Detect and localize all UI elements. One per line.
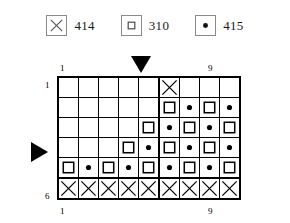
grid-cell[interactable] [99, 138, 119, 158]
grid-cell[interactable] [139, 158, 160, 179]
dot-icon [180, 138, 199, 157]
grid-cell[interactable] [200, 77, 220, 98]
cross-icon [220, 179, 239, 198]
grid-cell[interactable] [58, 178, 79, 199]
grid-cell[interactable] [220, 98, 241, 118]
dot-icon [200, 118, 219, 137]
grid-cell[interactable] [99, 118, 119, 138]
grid-cell[interactable] [79, 158, 99, 179]
grid-cell[interactable] [119, 98, 139, 118]
square-icon [119, 138, 138, 157]
grid-cell[interactable] [79, 77, 99, 98]
cross-icon [99, 179, 118, 198]
cross-icon [160, 78, 179, 97]
grid-cell[interactable] [139, 138, 160, 158]
dot-icon [139, 138, 158, 157]
grid-cell[interactable] [119, 77, 139, 98]
grid-cell[interactable] [159, 178, 180, 199]
cross-icon [139, 179, 158, 198]
grid-cell[interactable] [200, 178, 220, 199]
cross-icon [180, 179, 199, 198]
grid-cell[interactable] [119, 138, 139, 158]
square-icon [220, 158, 239, 177]
grid-cell[interactable] [180, 98, 200, 118]
grid-cell[interactable] [79, 138, 99, 158]
cross-icon [200, 179, 219, 198]
grid-cell[interactable] [180, 77, 200, 98]
row-label-top-left: 1 [45, 81, 50, 90]
grid-cell[interactable] [200, 118, 220, 138]
dot-icon [79, 158, 98, 177]
legend-entry-310: 310 [121, 15, 169, 36]
grid-container [57, 76, 241, 200]
square-icon [180, 118, 199, 137]
grid-cell[interactable] [200, 98, 220, 118]
grid-cell[interactable] [99, 158, 119, 179]
grid-cell[interactable] [139, 77, 160, 98]
grid-row [58, 98, 240, 118]
triangle-down-icon [131, 56, 151, 73]
column-label-bottom-right: 9 [208, 207, 213, 216]
grid-cell[interactable] [119, 158, 139, 179]
row-label-bottom-left: 6 [45, 192, 50, 201]
square-icon [99, 158, 118, 177]
grid-cell[interactable] [220, 178, 241, 199]
column-label-top-right: 9 [208, 64, 213, 73]
square-icon [200, 138, 219, 157]
grid-cell[interactable] [220, 77, 241, 98]
grid-row [58, 118, 240, 138]
grid-row [58, 178, 240, 199]
grid-cell[interactable] [159, 138, 180, 158]
dot-icon [220, 98, 239, 117]
grid-cell[interactable] [139, 118, 160, 138]
square-icon [160, 98, 179, 117]
grid-cell[interactable] [119, 118, 139, 138]
dot-icon [200, 158, 219, 177]
grid-cell[interactable] [99, 98, 119, 118]
cross-icon [160, 179, 179, 198]
grid-cell[interactable] [79, 118, 99, 138]
grid-cell[interactable] [58, 138, 79, 158]
grid-cell[interactable] [220, 158, 241, 179]
grid-cell[interactable] [180, 138, 200, 158]
grid-cell[interactable] [139, 178, 160, 199]
cross-icon [59, 179, 78, 198]
grid-row [58, 77, 240, 98]
grid-body [58, 77, 240, 199]
grid-cell[interactable] [180, 178, 200, 199]
grid-cell[interactable] [220, 118, 241, 138]
grid-cell[interactable] [200, 138, 220, 158]
grid-row [58, 158, 240, 179]
square-icon [59, 158, 78, 177]
grid-cell[interactable] [99, 178, 119, 199]
grid-cell[interactable] [159, 98, 180, 118]
grid-cell[interactable] [79, 178, 99, 199]
grid-cell[interactable] [180, 118, 200, 138]
grid-cell[interactable] [139, 98, 160, 118]
grid-cell[interactable] [159, 118, 180, 138]
grid-cell[interactable] [119, 178, 139, 199]
pattern-chart: 1 9 1 9 1 1 6 6 [0, 46, 290, 223]
square-icon [200, 98, 219, 117]
grid-cell[interactable] [58, 158, 79, 179]
square-icon [139, 118, 158, 137]
grid-cell[interactable] [58, 77, 79, 98]
grid-cell[interactable] [159, 158, 180, 179]
grid-cell[interactable] [99, 77, 119, 98]
grid-cell[interactable] [200, 158, 220, 179]
grid-cell[interactable] [58, 98, 79, 118]
grid-cell[interactable] [220, 138, 241, 158]
square-icon [220, 118, 239, 137]
legend-label-414: 414 [74, 19, 94, 32]
cross-icon [119, 179, 138, 198]
grid-row [58, 138, 240, 158]
grid-cell[interactable] [79, 98, 99, 118]
square-icon [139, 158, 158, 177]
dot-icon [195, 15, 216, 36]
dot-icon [160, 118, 179, 137]
grid-cell[interactable] [159, 77, 180, 98]
triangle-right-icon [31, 142, 48, 162]
grid-cell[interactable] [180, 158, 200, 179]
grid-cell[interactable] [58, 118, 79, 138]
square-icon [160, 138, 179, 157]
